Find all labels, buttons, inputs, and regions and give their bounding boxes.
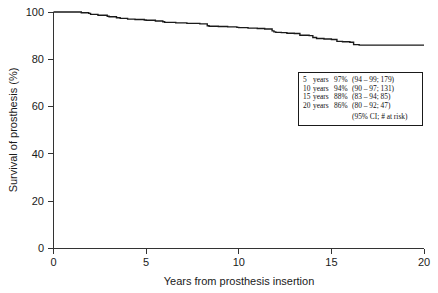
y-tick-label-80: 80 <box>32 53 44 65</box>
survival-chart-figure: 0 20 40 60 80 100 0 5 10 15 20 Years fro… <box>0 0 438 293</box>
legend-row-3-unit: years <box>313 101 329 110</box>
legend-box-group: 5 years 97% (94 – 99; 179) 10 years 94% … <box>299 73 423 126</box>
x-axis-title: Years from prosthesis insertion <box>164 275 315 287</box>
x-tick-label-15: 15 <box>325 256 337 268</box>
legend-row-3-time: 20 <box>303 101 311 110</box>
x-axis-ticks: 0 5 10 15 20 <box>50 249 430 269</box>
y-tick-label-60: 60 <box>32 100 44 112</box>
y-axis-ticks: 0 20 40 60 80 100 <box>26 6 54 254</box>
y-tick-label-0: 0 <box>38 242 44 254</box>
y-axis-title: Survival of prosthesis (%) <box>7 68 19 193</box>
x-tick-label-0: 0 <box>50 256 56 268</box>
chart-canvas: 0 20 40 60 80 100 0 5 10 15 20 Years fro… <box>0 0 438 293</box>
x-tick-label-10: 10 <box>233 256 245 268</box>
survival-curve-line <box>54 12 425 45</box>
legend-footer: (95% CI; # at risk) <box>352 112 408 121</box>
axes-group <box>54 12 425 249</box>
legend-row-3-interval: (80 – 92; 47) <box>352 101 391 110</box>
x-tick-label-5: 5 <box>143 256 149 268</box>
y-tick-label-20: 20 <box>32 195 44 207</box>
y-tick-label-100: 100 <box>26 6 44 18</box>
y-tick-label-40: 40 <box>32 148 44 160</box>
x-tick-label-20: 20 <box>418 256 430 268</box>
legend-row-3-survival: 86% <box>334 101 348 110</box>
